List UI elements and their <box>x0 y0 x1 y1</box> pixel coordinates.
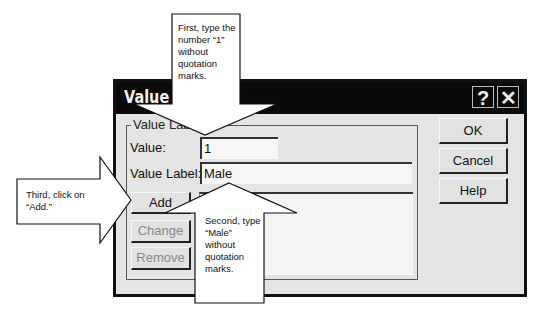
up-arrow-callout-icon <box>0 0 538 319</box>
second-callout-text: Second, type “Male” without quotation ma… <box>205 215 261 275</box>
